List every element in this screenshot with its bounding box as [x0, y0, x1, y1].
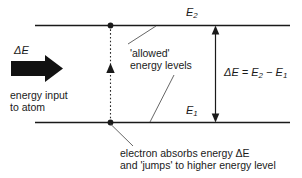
energy-input-line-1: energy input — [10, 89, 68, 101]
leader-line-caption — [111, 124, 134, 146]
allowed-levels-line-2: energy levels — [130, 59, 192, 71]
electron-dot-upper — [108, 23, 114, 29]
gap-arrow-head-down-icon — [212, 114, 220, 123]
leader-line-allowed-upper — [128, 26, 156, 44]
electron-absorption-caption: electron absorbs energy ΔE and 'jumps' t… — [120, 147, 276, 172]
allowed-levels-line-1: 'allowed' — [130, 47, 192, 59]
energy-input-block-arrow-icon — [11, 55, 63, 82]
gap-arrow-head-up-icon — [212, 26, 220, 35]
caption-line-1: electron absorbs energy ΔE — [120, 147, 276, 159]
caption-line-2: and 'jumps' to higher energy level — [120, 159, 276, 171]
transition-arrowhead-icon — [106, 63, 114, 73]
leader-line-allowed-lower — [150, 75, 174, 122]
delta-e-label: ΔE — [14, 44, 29, 57]
energy-level-diagram: E2 E1 ΔE ΔE = E2 − E1 'allowed' energy l… — [0, 0, 302, 178]
energy-input-line-2: to atom — [10, 101, 68, 113]
upper-level-label: E2 — [186, 6, 198, 19]
allowed-levels-annotation: 'allowed' energy levels — [130, 47, 192, 72]
energy-difference-equation: ΔE = E2 − E1 — [224, 66, 287, 79]
lower-level-label: E1 — [186, 104, 198, 117]
energy-input-annotation: energy input to atom — [10, 89, 68, 114]
